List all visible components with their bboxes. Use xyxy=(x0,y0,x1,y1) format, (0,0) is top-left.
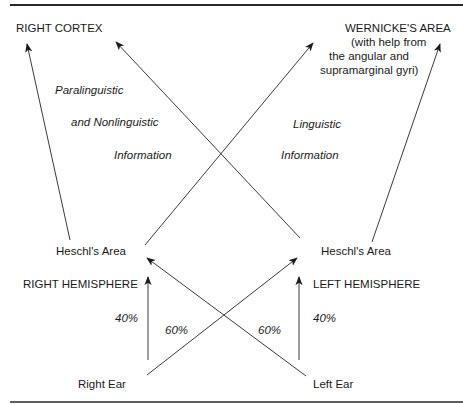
arrow-heschl-right-to-wernicke xyxy=(145,43,313,245)
left-ipsilateral-percent: 40% xyxy=(313,312,336,325)
right-information-label: Information xyxy=(114,149,172,162)
wernicke-note-line-1: (with help from xyxy=(351,36,426,49)
left-ear-label: Left Ear xyxy=(313,378,353,391)
wernicke-note-line-3: supramarginal gyri) xyxy=(320,64,418,77)
paralinguistic-label: Paralinguistic xyxy=(55,84,123,97)
right-ear-label: Right Ear xyxy=(78,378,126,391)
wernicke-area-label: WERNICKE'S AREA xyxy=(345,22,451,35)
heschl-area-right-label: Heschl's Area xyxy=(56,245,126,258)
left-hemisphere-label: LEFT HEMISPHERE xyxy=(313,278,420,291)
arrow-right-ear-contralateral xyxy=(147,258,297,375)
left-contralateral-percent: 60% xyxy=(258,324,281,337)
auditory-pathway-diagram: RIGHT CORTEX WERNICKE'S AREA (with help … xyxy=(0,0,463,404)
right-ipsilateral-percent: 40% xyxy=(115,312,138,325)
heschl-area-left-label: Heschl's Area xyxy=(321,245,391,258)
right-contralateral-percent: 60% xyxy=(165,324,188,337)
right-hemisphere-label: RIGHT HEMISPHERE xyxy=(23,278,138,291)
left-information-label: Information xyxy=(281,149,339,162)
arrow-heschl-left-to-right-cortex xyxy=(116,42,300,238)
linguistic-label: Linguistic xyxy=(293,118,341,131)
wernicke-note-line-2: the angular and xyxy=(329,50,409,63)
right-cortex-label: RIGHT CORTEX xyxy=(16,22,102,35)
arrow-left-ear-contralateral xyxy=(147,258,306,376)
nonlinguistic-label: and Nonlinguistic xyxy=(71,116,159,129)
arrow-heschl-right-to-right-cortex xyxy=(27,44,70,240)
